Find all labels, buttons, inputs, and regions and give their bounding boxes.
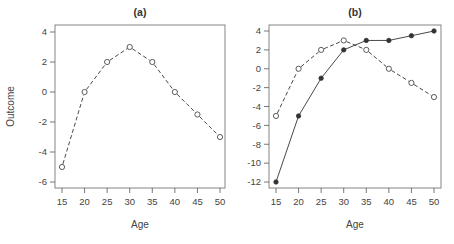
data-point (59, 164, 64, 169)
y-axis: 420-2-4-6-8-10-12 (247, 25, 269, 187)
x-tick-label: 45 (192, 196, 203, 207)
data-point (82, 89, 87, 94)
y-tick-label: -10 (247, 157, 261, 168)
x-tick-label: 50 (429, 196, 440, 207)
data-point (364, 38, 368, 42)
panel-a: (a)420-2-4-61520253035404550AgeOutcome (5, 6, 225, 230)
data-point (150, 59, 155, 64)
y-tick-label: 4 (42, 26, 47, 37)
y-tick-label: -6 (39, 176, 47, 187)
x-axis-label: Age (131, 219, 149, 230)
y-tick-label: 0 (42, 86, 47, 97)
panel-title: (a) (134, 6, 147, 18)
x-tick-label: 15 (271, 196, 282, 207)
x-tick-label: 30 (124, 196, 135, 207)
x-tick-label: 45 (406, 196, 417, 207)
data-point (172, 89, 177, 94)
chart-figure: (a)420-2-4-61520253035404550AgeOutcome (… (0, 0, 454, 244)
x-tick-label: 25 (102, 196, 113, 207)
panel-b: (b)420-2-4-6-8-10-121520253035404550Age (247, 6, 441, 230)
y-tick-label: -4 (39, 146, 47, 157)
data-point (217, 134, 222, 139)
x-tick-label: 20 (293, 196, 304, 207)
x-axis-label: Age (346, 219, 364, 230)
data-point (127, 44, 132, 49)
series-dashed-open (59, 44, 222, 169)
data-point (195, 112, 200, 117)
data-point (341, 38, 346, 43)
x-tick-label: 50 (215, 196, 226, 207)
x-tick-label: 15 (57, 196, 68, 207)
y-tick-label: -8 (253, 139, 261, 150)
y-axis: 420-2-4-6 (39, 26, 55, 187)
y-tick-label: 0 (256, 63, 261, 74)
data-point (319, 76, 323, 80)
series-dashed-open (273, 38, 436, 119)
data-point (386, 66, 391, 71)
x-axis: 1520253035404550 (57, 188, 226, 207)
x-tick-label: 35 (147, 196, 158, 207)
y-tick-label: 2 (42, 56, 47, 67)
data-point (319, 47, 324, 52)
data-point (432, 29, 436, 33)
panel-title: (b) (348, 6, 361, 18)
y-tick-label: -4 (253, 101, 261, 112)
x-tick-label: 25 (316, 196, 327, 207)
data-point (342, 48, 346, 52)
series-solid-filled (274, 29, 436, 184)
x-tick-label: 40 (170, 196, 181, 207)
data-point (409, 34, 413, 38)
data-point (387, 38, 391, 42)
x-tick-label: 20 (79, 196, 90, 207)
x-axis: 1520253035404550 (271, 188, 440, 207)
x-tick-label: 30 (338, 196, 349, 207)
y-tick-label: 2 (256, 44, 261, 55)
data-point (409, 80, 414, 85)
data-point (364, 47, 369, 52)
data-point (105, 59, 110, 64)
y-tick-label: -12 (247, 176, 261, 187)
y-tick-label: -6 (253, 120, 261, 131)
y-tick-label: 4 (256, 25, 261, 36)
data-point (273, 113, 278, 118)
x-tick-label: 40 (384, 196, 395, 207)
data-point (274, 180, 278, 184)
data-point (431, 94, 436, 99)
x-tick-label: 35 (361, 196, 372, 207)
data-point (296, 66, 301, 71)
y-tick-label: -2 (39, 116, 47, 127)
data-point (296, 114, 300, 118)
y-tick-label: -2 (253, 82, 261, 93)
y-axis-label: Outcome (5, 86, 16, 127)
plot-frame (269, 25, 441, 188)
